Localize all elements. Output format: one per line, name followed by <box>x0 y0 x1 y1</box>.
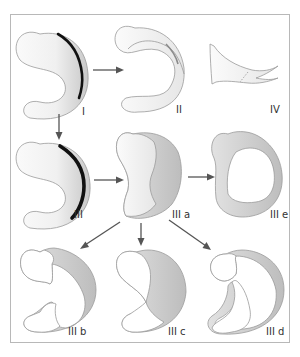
label-IV: IV <box>270 104 280 115</box>
label-IIIc: III c <box>168 326 186 337</box>
label-II: II <box>176 104 182 115</box>
label-I: I <box>82 106 85 117</box>
label-IIId: III d <box>266 326 284 337</box>
label-IIIa: III a <box>172 209 190 220</box>
label-III: III <box>74 209 83 220</box>
label-IIIb: III b <box>68 326 86 337</box>
stage-diagram: I II IV III III a III e III b I <box>0 0 300 357</box>
label-IIIe: III e <box>270 209 288 220</box>
